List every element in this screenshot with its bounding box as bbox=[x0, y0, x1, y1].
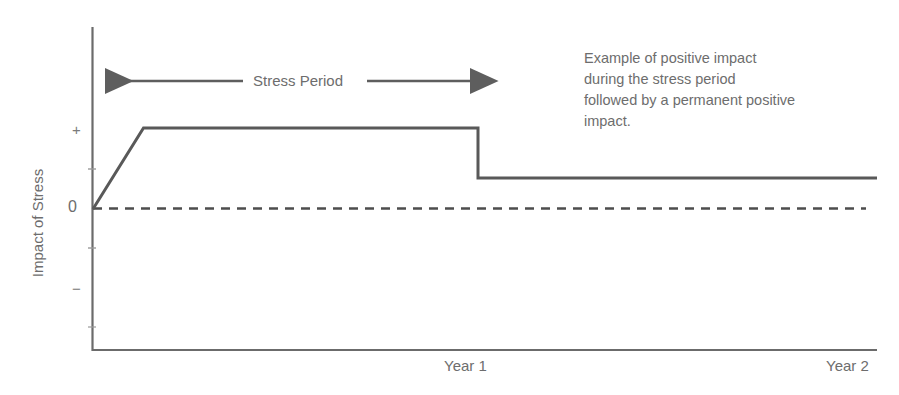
impact-curve bbox=[93, 128, 877, 209]
x-tick-label-year-2: Year 2 bbox=[826, 356, 869, 375]
stress-period-label: Stress Period bbox=[253, 71, 343, 90]
annotation-text: Example of positive impact during the st… bbox=[584, 48, 795, 132]
stress-impact-chart: Impact of Stress + 0 − Stress Period Exa… bbox=[0, 0, 899, 395]
x-tick-label-year-1: Year 1 bbox=[444, 356, 487, 375]
y-tick-label-negative: − bbox=[72, 279, 81, 298]
y-tick-label-zero: 0 bbox=[68, 197, 77, 217]
y-axis-title: Impact of Stress bbox=[28, 143, 47, 303]
y-tick-label-positive: + bbox=[72, 120, 81, 139]
